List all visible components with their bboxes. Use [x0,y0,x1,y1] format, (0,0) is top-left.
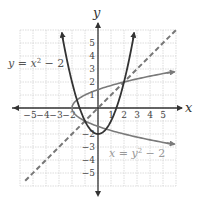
x-tick-label: 5 [160,110,166,120]
y-tick-label: −5 [82,168,96,178]
curve-label-x-eq-y2-minus-2: x = y2 − 2 [109,147,165,160]
y-tick-label: 2 [89,77,95,87]
chart: −5−4−3−21234554321−2−3−4−5 x y y = x2 − … [0,0,209,210]
x-tick-label: 2 [121,110,127,120]
x-tick-label: −3 [49,110,63,120]
y-tick-label: −3 [82,142,96,152]
y-axis-label: y [92,5,101,20]
y-tick-label: −2 [82,129,95,139]
x-tick-label: 3 [134,110,140,120]
x-tick-label: −4 [36,110,50,120]
y-tick-label: 3 [89,64,95,74]
y-tick-label: 5 [89,38,95,48]
y-tick-label: −4 [82,155,96,165]
curve-label-y-eq-x2-minus-2: y = x2 − 2 [7,57,64,70]
y-tick-label: 4 [89,51,95,61]
x-axis-label: x [185,100,193,115]
x-tick-label: −5 [23,110,37,120]
x-tick-label: 4 [147,110,153,120]
